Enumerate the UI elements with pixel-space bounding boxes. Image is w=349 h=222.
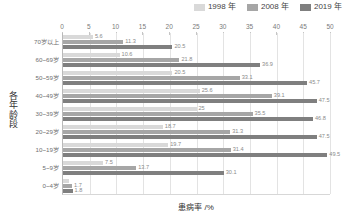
bar-row: 11.3	[63, 40, 330, 44]
bar[interactable]	[63, 125, 163, 129]
bar-row: 45.7	[63, 81, 330, 85]
x-axis-tick-label: 5	[87, 24, 91, 31]
chart-legend: 1998 年2008 年2019 年	[194, 3, 342, 11]
bar-row: 7.5	[63, 161, 330, 165]
bar[interactable]	[63, 99, 317, 103]
y-axis-category-label: 60~69岁	[36, 57, 59, 63]
bar-value-label: 46.8	[315, 116, 326, 122]
bar[interactable]	[63, 63, 260, 67]
bar-value-label: 39.1	[274, 93, 285, 99]
bar[interactable]	[63, 117, 313, 121]
bar-value-label: 20.5	[174, 44, 185, 50]
bar-value-label: 19.7	[170, 142, 181, 148]
legend-label: 2008 年	[261, 3, 289, 11]
bar-value-label: 1.8	[75, 188, 83, 194]
bar-row: 39.1	[63, 94, 330, 98]
x-axis-tick-label: 20	[166, 24, 173, 31]
bar-value-label: 31.3	[232, 129, 243, 135]
bar[interactable]	[63, 81, 307, 85]
bar-value-label: 25.6	[202, 88, 213, 94]
gridline	[330, 33, 331, 194]
bar[interactable]	[63, 53, 120, 57]
bar[interactable]	[63, 76, 240, 80]
bar-row: 1.8	[63, 189, 330, 193]
bar-group: 50~59岁20.533.145.7	[63, 69, 330, 87]
x-axis-tick-label: 30	[219, 24, 226, 31]
bar[interactable]	[63, 130, 230, 134]
bar[interactable]	[63, 107, 197, 111]
legend-swatch-icon	[194, 4, 205, 11]
legend-item-1998-年[interactable]: 1998 年	[194, 3, 236, 11]
bar-value-label: 31.4	[233, 147, 244, 153]
x-axis-tick-label: 0	[60, 24, 64, 31]
bar-row: 47.5	[63, 135, 330, 139]
bar-row: 21.8	[63, 58, 330, 62]
bar-row: 19.7	[63, 143, 330, 147]
bar[interactable]	[63, 71, 172, 75]
bar-row: 25	[63, 107, 330, 111]
legend-item-2008-年[interactable]: 2008 年	[247, 3, 289, 11]
bar[interactable]	[63, 35, 93, 39]
bar-groups: 70岁以上5.611.320.560~69岁10.621.836.950~59岁…	[63, 33, 330, 194]
bar-row: 36.9	[63, 63, 330, 67]
bar-row: 33.1	[63, 76, 330, 80]
bar[interactable]	[63, 148, 231, 152]
x-axis-ticks: 05101520253035404550	[62, 24, 330, 33]
x-axis-title: 患病率 /%	[62, 201, 330, 212]
legend-label: 2019 年	[314, 3, 342, 11]
bar[interactable]	[63, 143, 168, 147]
bar-group: 60~69岁10.621.836.9	[63, 51, 330, 69]
bar-row: 31.3	[63, 130, 330, 134]
bar[interactable]	[63, 184, 72, 188]
bar[interactable]	[63, 161, 103, 165]
bar[interactable]	[63, 135, 317, 139]
y-axis-category-label: 20~29岁	[36, 129, 59, 135]
x-axis-tick-label: 45	[300, 24, 307, 31]
bar-row: 1.7	[63, 184, 330, 188]
bar-value-label: 49.5	[329, 152, 340, 158]
x-axis-tick-label: 40	[273, 24, 280, 31]
bar-chart: 1998 年2008 年2019 年 05101520253035404550 …	[0, 0, 349, 222]
bar[interactable]	[63, 45, 172, 49]
bar-value-label: 45.7	[309, 80, 320, 86]
bar[interactable]	[63, 89, 200, 93]
bar[interactable]	[63, 189, 73, 193]
bar[interactable]	[63, 58, 179, 62]
bar-row	[63, 179, 330, 183]
bar[interactable]	[63, 40, 123, 44]
bar-value-label: 35.5	[255, 111, 266, 117]
bar-row: 5.6	[63, 35, 330, 39]
bar[interactable]	[63, 153, 327, 157]
bar[interactable]	[63, 166, 136, 170]
bar-row: 30.1	[63, 171, 330, 175]
y-axis-category-label: 50~59岁	[36, 75, 59, 81]
y-axis-category-label: 30~39岁	[36, 111, 59, 117]
bar-row: 18.7	[63, 125, 330, 129]
bar-group: 5~9岁7.513.730.1	[63, 159, 330, 177]
bar-value-label: 21.8	[181, 57, 192, 63]
bar-value-label: 18.7	[165, 124, 176, 130]
bar-group: 40~49岁25.639.147.5	[63, 87, 330, 105]
y-axis-category-label: 5~9岁	[43, 165, 60, 171]
x-axis-tick-label: 15	[139, 24, 146, 31]
bar-row: 13.7	[63, 166, 330, 170]
bar-value-label: 47.5	[319, 134, 330, 140]
legend-label: 1998 年	[208, 3, 236, 11]
bar-value-label: 7.5	[105, 160, 113, 166]
bar-value-label: 30.1	[226, 170, 237, 176]
legend-item-2019-年[interactable]: 2019 年	[300, 3, 342, 11]
bar-value-label: 25	[199, 106, 205, 112]
bar[interactable]	[63, 112, 253, 116]
bar[interactable]	[63, 179, 69, 183]
x-axis-tick-label: 50	[326, 24, 333, 31]
y-axis-category-label: 10~19岁	[36, 147, 59, 153]
bar-value-label: 47.5	[319, 98, 330, 104]
bar-row: 47.5	[63, 99, 330, 103]
bar[interactable]	[63, 94, 272, 98]
bar-group: 20~29岁18.731.347.5	[63, 123, 330, 141]
bar-value-label: 11.3	[125, 39, 135, 45]
bar-row: 31.4	[63, 148, 330, 152]
bar[interactable]	[63, 171, 224, 175]
bar-row: 10.6	[63, 53, 330, 57]
x-axis-tick-label: 35	[246, 24, 253, 31]
